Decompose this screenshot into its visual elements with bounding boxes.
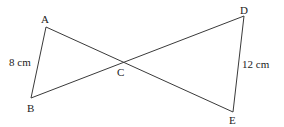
vertex-label-e: E: [229, 114, 236, 126]
vertex-label-b: B: [27, 102, 34, 114]
triangle-diagram: A B C D E 8 cm 12 cm: [0, 0, 284, 127]
vertex-label-a: A: [41, 13, 49, 25]
vertex-label-c: C: [117, 66, 124, 78]
vertex-label-d: D: [240, 4, 248, 16]
segment-bd: [31, 16, 244, 98]
measurement-ab: 8 cm: [9, 56, 31, 68]
measurement-de: 12 cm: [242, 58, 270, 70]
segment-ae: [46, 27, 233, 112]
segment-ab: [31, 27, 46, 98]
diagram-canvas: A B C D E 8 cm 12 cm: [0, 0, 284, 127]
